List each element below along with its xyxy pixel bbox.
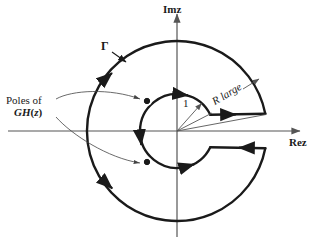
poles-annotation-line2: GH(z) (14, 106, 42, 118)
r-large-radius-line (177, 115, 266, 132)
paren-close: ) (38, 106, 42, 118)
pole-upper-marker (144, 98, 149, 103)
inner-arrow-left-icon (140, 136, 141, 145)
radius-indicators (177, 79, 266, 131)
gamma-contour-label: Γ (101, 40, 109, 53)
pole-lower-marker (144, 159, 149, 164)
leader-line-lower-pole (56, 117, 140, 163)
nyquist-contour-figure: Imz Rez Γ 1 R large Poles of GH(z) (0, 0, 318, 247)
contour-drawing (0, 0, 318, 247)
real-axis-label: Rez (289, 136, 307, 148)
inner-arrow-bottom-icon (185, 164, 194, 167)
notch-upper-segment (210, 114, 265, 115)
gh-text: GH (14, 106, 31, 118)
pole-leader-lines (56, 91, 140, 163)
inner-arrow-top-icon (179, 94, 188, 95)
poles-annotation-line1: Poles of (6, 94, 42, 106)
axis-group (8, 14, 300, 237)
leader-line-upper-pole (56, 91, 140, 99)
notch-lower-segment (210, 147, 265, 148)
notch-edge-ray (177, 113, 212, 131)
unit-radius-label: 1 (183, 97, 189, 109)
poles-annotation: Poles of GH(z) (6, 94, 42, 119)
imaginary-axis-label: Imz (163, 3, 181, 15)
